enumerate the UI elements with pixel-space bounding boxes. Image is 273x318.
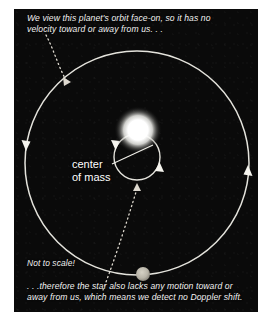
scale-note: Not to scale! [27, 258, 75, 269]
orbit-arrow-right-icon [244, 165, 253, 176]
star [114, 106, 162, 154]
center-of-mass-label-line1: center [72, 158, 103, 170]
center-of-mass-label-line2: of mass [72, 171, 111, 183]
center-of-mass-label: center of mass [72, 158, 111, 184]
planet-orbit [25, 51, 249, 275]
figure-root: We view this planet's orbit face-on, so … [0, 0, 273, 318]
top-pointer-arrow-icon [63, 77, 71, 86]
planet [136, 267, 150, 281]
top-caption: We view this planet's orbit face-on, so … [27, 13, 239, 36]
wobble-arrow-right-icon [155, 162, 164, 172]
bottom-caption: . . .therefore the star also lacks any m… [27, 281, 245, 304]
bottom-pointer-arrow-icon [133, 183, 141, 191]
diagram-canvas [0, 0, 273, 318]
top-pointer-dotted [46, 35, 66, 80]
orbit-arrow-left-icon [22, 140, 31, 151]
